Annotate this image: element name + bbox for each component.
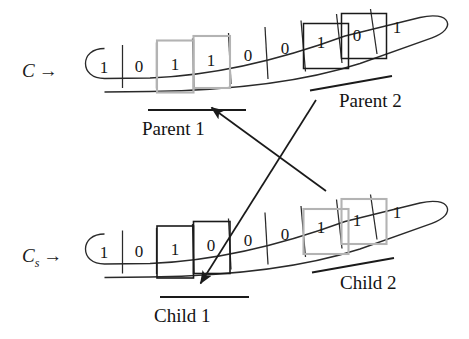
- parent-bits: 1 0 1 1 0 0 1 0 1: [100, 18, 402, 77]
- figure-canvas: C→ Cs→ Parent 1 Parent 2 Child 1 Child 2: [0, 0, 469, 339]
- parent-2-underline-bar: [310, 76, 392, 91]
- child-bit-8: 1: [393, 203, 402, 222]
- child-bit-7: 1: [353, 211, 362, 230]
- parent-bit-1: 0: [135, 57, 144, 76]
- child-chromosome: 1 0 1 0 0 0 1 1 1: [86, 195, 448, 298]
- parent-chromosome: 1 0 1 1 0 0 1 0 1: [86, 9, 448, 110]
- child-bit-4: 0: [244, 231, 253, 250]
- chromosome-drawing: 1 0 1 1 0 0 1 0 1: [0, 0, 469, 339]
- parent-bit-8: 1: [393, 18, 402, 37]
- child-bit-0: 1: [100, 243, 109, 262]
- child-bit-2: 1: [171, 240, 180, 259]
- child-bit-6: 1: [317, 218, 326, 237]
- parent-bit-4: 0: [244, 46, 253, 65]
- child-bit-5: 0: [281, 225, 290, 244]
- arrow-parent1-to-child2: [201, 100, 317, 284]
- parent-bit-0: 1: [100, 58, 109, 77]
- parent-bit-2: 1: [171, 55, 180, 74]
- child-bits: 1 0 1 0 0 0 1 1 1: [100, 203, 402, 262]
- child-1-selection-boxes: [157, 222, 230, 279]
- parent-1-selection-boxes: [157, 36, 230, 93]
- child-2-underline-bar: [312, 258, 394, 273]
- parent-bit-6: 1: [317, 33, 326, 52]
- arrow-parent2-to-child1: [212, 108, 327, 192]
- child-bit-1: 0: [135, 242, 144, 261]
- parent-bit-7: 0: [353, 26, 362, 45]
- child-bit-3: 0: [207, 236, 216, 255]
- parent-bit-5: 0: [281, 39, 290, 58]
- parent-bit-3: 1: [207, 51, 216, 70]
